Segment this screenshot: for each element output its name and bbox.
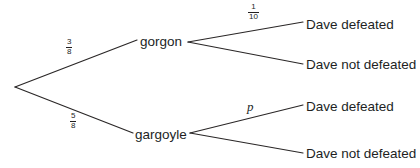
fraction-numerator: 5	[70, 112, 76, 121]
leaf-label-gorgon-dave-not-defeated: Dave not defeated	[306, 58, 416, 72]
leaf-label-gorgon-dave-defeated: Dave defeated	[306, 18, 394, 32]
leaf-label-gargoyle-dave-defeated: Dave defeated	[306, 100, 394, 114]
node-label-gorgon: gorgon	[140, 35, 182, 49]
fraction-denominator: 8	[70, 122, 76, 131]
node-label-gargoyle: gargoyle	[135, 128, 187, 142]
fraction-numerator: 3	[66, 38, 72, 47]
leaf-label-gargoyle-dave-not-defeated: Dave not defeated	[306, 147, 416, 161]
fraction-denominator: 10	[248, 13, 259, 22]
branch-probability-gargoyle-defeated: p	[247, 100, 254, 113]
probability-tree-diagram: gorgon gargoyle Dave defeated Dave not d…	[0, 0, 420, 168]
branch-root-to-gorgon	[15, 40, 137, 87]
fraction-denominator: 8	[66, 48, 72, 57]
fraction-numerator: 1	[248, 3, 259, 12]
branch-probability-gargoyle: 5 8	[70, 112, 76, 131]
branch-gorgon-to-not-defeated	[188, 42, 303, 64]
branch-probability-gorgon-defeated: 1 10	[248, 3, 259, 22]
branch-gorgon-to-defeated	[188, 22, 303, 42]
branch-probability-gorgon: 3 8	[66, 38, 72, 57]
branch-gargoyle-to-not-defeated	[190, 133, 303, 153]
